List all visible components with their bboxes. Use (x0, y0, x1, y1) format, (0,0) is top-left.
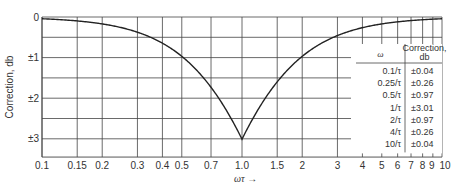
correction-chart: 0.10.150.20.30.40.50.71.01.52345678910 0… (0, 0, 456, 190)
table-cell-omega: 1/τ (390, 103, 402, 113)
x-tick-label: 0.7 (204, 160, 218, 171)
x-tick-label: 0.3 (130, 160, 144, 171)
y-tick-label: 0 (33, 12, 39, 23)
table-cell-correction: ±0.97 (411, 115, 433, 125)
table-cell-correction: ±0.04 (411, 66, 433, 76)
y-axis-tick-labels: 0±1±2±3 (28, 12, 40, 145)
table-cell-correction: ±3.01 (411, 103, 433, 113)
x-tick-label: 0.4 (155, 160, 169, 171)
table-cell-omega: 2/τ (390, 115, 402, 125)
x-tick-label: 8 (420, 160, 426, 171)
table-cell-omega: 0.1/τ (382, 66, 401, 76)
table-cell-correction: ±0.26 (411, 127, 433, 137)
table-cell-omega: 0.5/τ (382, 90, 401, 100)
table-cell-omega: 10/τ (385, 139, 402, 149)
table-cell-correction: ±0.26 (411, 78, 433, 88)
table-cell-correction: ±0.97 (411, 90, 433, 100)
x-tick-label: 1.0 (235, 160, 249, 171)
x-tick-label: 9 (429, 160, 435, 171)
y-tick-label: ±3 (28, 133, 39, 144)
x-tick-label: 7 (408, 160, 414, 171)
table-header-correction-unit: db (419, 52, 429, 62)
x-axis-label: ωτ → (234, 173, 257, 184)
x-tick-label: 0.1 (35, 160, 49, 171)
x-axis-tick-labels: 0.10.150.20.30.40.50.71.01.52345678910 (35, 160, 451, 171)
table-cell-correction: ±0.04 (411, 139, 433, 149)
x-tick-label: 0.2 (95, 160, 109, 171)
x-tick-label: 10 (439, 160, 451, 171)
x-tick-label: 0.5 (175, 160, 189, 171)
x-tick-label: 1.5 (270, 160, 284, 171)
x-tick-label: 2 (299, 160, 305, 171)
x-tick-label: 3 (335, 160, 341, 171)
y-axis-label: Correction, db (4, 55, 15, 118)
table-header-omega: ω (377, 49, 383, 59)
x-tick-label: 0.15 (67, 160, 87, 171)
y-tick-label: ±2 (28, 93, 39, 104)
x-tick-label: 6 (395, 160, 401, 171)
x-tick-label: 5 (379, 160, 385, 171)
y-tick-label: ±1 (28, 52, 39, 63)
table-cell-omega: 4/τ (390, 127, 402, 137)
table-cell-omega: 0.25/τ (377, 78, 401, 88)
x-tick-label: 4 (360, 160, 366, 171)
